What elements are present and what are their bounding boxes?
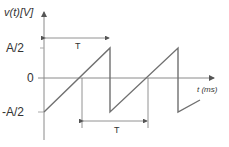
y-tick-zero: 0	[27, 71, 34, 85]
y-tick-neg-a-half: -A/2	[2, 105, 24, 119]
sawtooth-waveform	[44, 48, 200, 112]
period-label-top: T	[75, 41, 81, 51]
y-tick-a-half: A/2	[6, 41, 24, 55]
y-axis-label: v(t)[V]	[4, 6, 34, 18]
x-axis-label: t (ms)	[197, 85, 218, 94]
sawtooth-diagram: v(t)[V] t (ms) A/2 0 -A/2 T T	[0, 0, 229, 147]
period-label-bottom: T	[114, 125, 120, 135]
